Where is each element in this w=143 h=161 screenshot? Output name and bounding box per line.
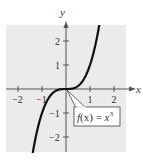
y-tick-label: −1 (49, 108, 60, 119)
y-axis-arrow-icon (64, 21, 69, 28)
x-tick-label: 2 (112, 94, 117, 105)
x-axis-arrow-icon (129, 87, 136, 92)
y-tick-label: 1 (55, 60, 60, 71)
y-tick-label: 2 (55, 36, 60, 47)
x-tick-label: 1 (88, 94, 93, 105)
x-tick-label: −2 (12, 94, 23, 105)
y-tick-label: −2 (49, 132, 60, 143)
cubic-function-graph: x y −2 −1 1 2 2 1 −1 −2 f(x) = x3 (0, 0, 143, 161)
x-axis-label: x (135, 83, 141, 95)
function-label: f(x) = x3 (77, 110, 114, 124)
function-label-box: f(x) = x3 (74, 107, 120, 126)
y-axis-label: y (59, 6, 65, 18)
